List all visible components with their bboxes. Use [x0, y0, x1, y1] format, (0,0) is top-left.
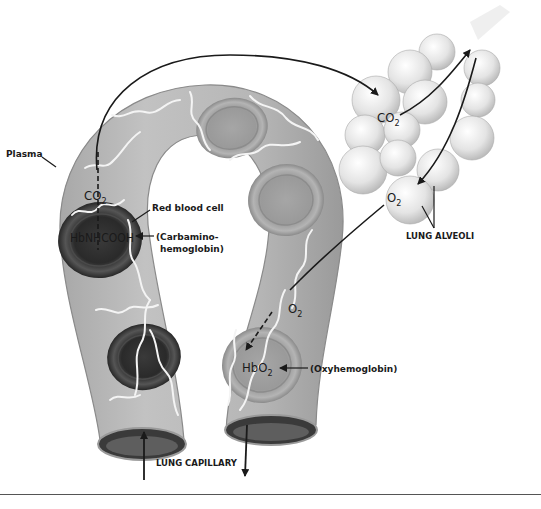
carbamino-label-line2: hemoglobin)	[160, 244, 224, 254]
oxyhemoglobin-label: (Oxyhemoglobin)	[310, 364, 397, 374]
bottom-divider	[0, 494, 541, 495]
lung-capillary-label: LUNG CAPILLARY	[156, 458, 238, 468]
lung-alveoli-label: LUNG ALVEOLI	[406, 231, 474, 241]
carbamino-label-line1: (Carbamino-	[156, 232, 219, 242]
plasma-label: Plasma	[6, 149, 43, 159]
plasma-leader	[42, 157, 56, 167]
red-blood-cell-label: Red blood cell	[152, 203, 224, 213]
gas-exchange-diagram: Plasma Red blood cell (Carbamino- hemogl…	[0, 0, 541, 509]
hbnhcooh-formula: HbNHCOOH	[70, 231, 134, 245]
lung-alveoli-cluster	[339, 5, 510, 224]
bronchiole	[470, 5, 510, 40]
lung-capillary	[53, 85, 343, 460]
